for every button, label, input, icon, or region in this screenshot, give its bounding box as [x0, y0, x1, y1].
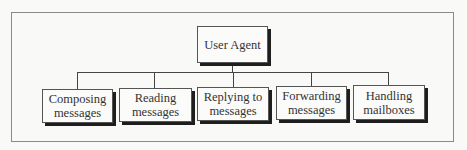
node-label-line2: messages [204, 104, 263, 118]
reading-messages-node: Reading messages [119, 88, 192, 122]
connector-reading [154, 72, 155, 88]
connector-handling [388, 72, 389, 85]
connector-forwarding [311, 72, 312, 86]
node-label-line2: messages [49, 106, 107, 120]
node-label-line1: Replying to [204, 90, 263, 104]
node-label-line2: messages [282, 103, 340, 117]
connector-replying [233, 72, 234, 87]
replying-to-messages-node: Replying to messages [197, 87, 269, 121]
node-label-line2: messages [132, 105, 179, 119]
composing-messages-node: Composing messages [42, 89, 113, 123]
connector-composing [77, 72, 78, 89]
user-agent-label: User Agent [204, 38, 261, 52]
node-label-line1: Composing [49, 92, 107, 106]
node-label-line1: Forwarding [282, 89, 340, 103]
handling-mailboxes-node: Handling mailboxes [353, 85, 425, 120]
node-label-line2: mailboxes [363, 103, 414, 117]
node-label-line1: Handling [363, 89, 414, 103]
node-label-line1: Reading [132, 91, 179, 105]
user-agent-node: User Agent [197, 26, 268, 63]
forwarding-messages-node: Forwarding messages [276, 86, 347, 120]
